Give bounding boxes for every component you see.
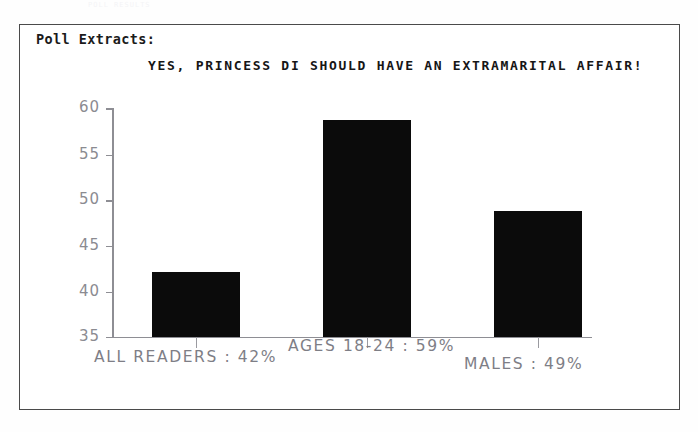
y-tick-label-55: 55 <box>79 147 100 162</box>
y-tick-50 <box>106 200 114 202</box>
y-tick-45 <box>106 246 114 248</box>
y-tick-label-45: 45 <box>79 238 100 253</box>
bar-all-readers <box>152 272 240 337</box>
y-tick-label-40: 40 <box>79 284 100 299</box>
x-tick-all-readers <box>196 337 198 348</box>
y-tick-label-45-wrap: 45 <box>56 238 100 254</box>
y-tick-label-60-wrap: 60 <box>56 100 100 116</box>
y-tick-60 <box>106 108 114 110</box>
y-tick-40 <box>106 292 114 294</box>
scan-artifact-text: POLL RESULTS <box>88 1 238 8</box>
y-tick-label-35-wrap: 35 <box>56 329 100 345</box>
y-tick-label-40-wrap: 40 <box>56 284 100 300</box>
y-tick-label-50: 50 <box>79 192 100 207</box>
y-tick-label-50-wrap: 50 <box>56 192 100 208</box>
y-tick-35 <box>106 337 114 339</box>
bar-ages-18-24 <box>323 120 411 337</box>
x-axis-label-all-readers: ALL READERS : 42% <box>94 350 277 366</box>
poll-chart-page: POLL RESULTS Poll Extracts: YES, PRINCES… <box>0 0 698 432</box>
y-tick-label-55-wrap: 55 <box>56 147 100 163</box>
y-tick-label-60: 60 <box>79 100 100 115</box>
x-tick-males <box>538 337 540 348</box>
bar-males <box>494 211 582 337</box>
chart-title: YES, PRINCESS DI SHOULD HAVE AN EXTRAMAR… <box>148 58 643 73</box>
x-axis-label-ages-18-24: AGES 18-24 : 59% <box>288 339 455 355</box>
y-tick-55 <box>106 155 114 157</box>
x-axis-label-males: MALES : 49% <box>464 357 583 373</box>
poll-extracts-heading: Poll Extracts: <box>36 31 155 47</box>
y-tick-label-35: 35 <box>79 329 100 344</box>
y-axis-line <box>112 108 114 338</box>
